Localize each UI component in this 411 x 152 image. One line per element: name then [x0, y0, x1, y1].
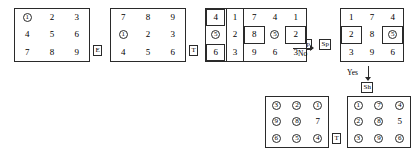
cell-value: 8 [146, 13, 151, 22]
grid-cell: 5 [389, 114, 410, 131]
cell-value: 1 [233, 13, 238, 22]
grid-cell: 7 [369, 97, 390, 114]
cell-value: 7 [25, 48, 30, 57]
cell-value: 1 [293, 13, 298, 22]
grid-cell: 7 [362, 9, 383, 26]
grid-cell: 6 [266, 130, 287, 147]
cell-value: 5 [388, 30, 397, 39]
column-separator [226, 9, 227, 61]
cell-value: 6 [170, 48, 175, 57]
cell-value: 5 [292, 134, 301, 143]
cell-value: 2 [293, 30, 298, 39]
cell-value: 1 [23, 13, 32, 22]
grid-cell: 5 [206, 26, 225, 43]
arrow-label-yes: Yes [347, 69, 358, 77]
cell-value: 8 [370, 30, 375, 39]
grid-cells: 174285396 [341, 9, 403, 61]
grid-cell: 2 [285, 26, 306, 43]
keycap-tab-2[interactable]: T [332, 133, 341, 144]
grid-cell: 8 [369, 114, 390, 131]
grid-cell: 5 [382, 26, 403, 43]
cell-value: 1 [349, 13, 354, 22]
keycap-space-2[interactable]: Sp [319, 39, 331, 50]
cell-value: 2 [233, 30, 238, 39]
grid-cell: 4 [382, 9, 403, 26]
grid-cell: 7 [307, 114, 328, 131]
grid-cell: 4 [307, 130, 328, 147]
grid-cells: 321987654 [266, 97, 328, 147]
grid-cell: 2 [341, 26, 362, 43]
grid-cell: 9 [244, 44, 265, 61]
cell-value: 3 [74, 13, 79, 22]
cell-value: 1 [119, 30, 128, 39]
grid-cell: 1 [111, 26, 136, 43]
cell-value: 7 [374, 101, 383, 110]
grid-cell: 5 [265, 26, 286, 43]
cell-value: 6 [395, 134, 404, 143]
grid-cell: 2 [225, 26, 244, 43]
grid-cell: 6 [64, 26, 89, 43]
grid-cell: 8 [287, 114, 308, 131]
keycap-shift[interactable]: Sh [361, 82, 373, 93]
cell-value: 6 [213, 48, 218, 57]
grid-cell: 1 [225, 9, 244, 26]
cell-value: 4 [213, 13, 218, 22]
cell-value: 3 [233, 48, 238, 57]
cell-value: 3 [349, 48, 354, 57]
cell-value: 4 [390, 13, 395, 22]
grid-cell: 4 [206, 9, 225, 26]
grid-cell: 3 [348, 130, 369, 147]
grid-cell: 4 [111, 44, 136, 61]
keycap-tab-1[interactable]: T [189, 45, 198, 56]
grid-cell: 6 [206, 44, 225, 61]
cell-value: 6 [273, 48, 278, 57]
cell-value: 1 [313, 101, 322, 110]
grid-cell: 4 [389, 97, 410, 114]
cell-value: 6 [390, 48, 395, 57]
cell-value: 7 [121, 13, 126, 22]
cell-value: 1 [354, 101, 363, 110]
transition-arrow-yes [364, 66, 374, 82]
cell-value: 5 [397, 117, 402, 126]
cell-value: 5 [146, 48, 151, 57]
cell-value: 5 [211, 30, 220, 39]
grid-cell: 2 [348, 114, 369, 131]
grid-cell: 8 [136, 9, 161, 26]
state-grid-1: 123456789 [14, 8, 90, 62]
grid-cells: 174285396 [348, 97, 410, 147]
grid-cells: 789123456 [111, 9, 185, 61]
grid-cell: 3 [266, 97, 287, 114]
cell-value: 2 [354, 117, 363, 126]
state-grid-7: 174285396 [347, 96, 411, 148]
grid-cell: 9 [266, 114, 287, 131]
cell-value: 9 [74, 48, 79, 57]
grid-cell: 3 [225, 44, 244, 61]
grid-cell: 5 [40, 26, 65, 43]
grid-cell: 4 [265, 9, 286, 26]
grid-cell: 6 [265, 44, 286, 61]
cell-value: 7 [252, 13, 257, 22]
grid-cell: 9 [160, 9, 185, 26]
grid-cell: 8 [244, 26, 265, 43]
cell-value: 4 [121, 48, 126, 57]
cell-value: 4 [313, 134, 322, 143]
cell-value: 8 [252, 30, 257, 39]
cell-value: 6 [272, 134, 281, 143]
grid-cell: 1 [15, 9, 40, 26]
grid-cell: 4 [15, 26, 40, 43]
grid-cell: 1 [307, 97, 328, 114]
grid-cell: 2 [136, 26, 161, 43]
arrow-label-no-2: No [298, 50, 307, 58]
cell-value: 3 [354, 134, 363, 143]
cell-value: 2 [146, 30, 151, 39]
grid-cell: 1 [348, 97, 369, 114]
cell-value: 4 [273, 13, 278, 22]
cell-value: 3 [272, 101, 281, 110]
keycap-enter[interactable]: E [93, 45, 102, 56]
cell-value: 9 [374, 134, 383, 143]
cell-value: 7 [370, 13, 375, 22]
grid-cell: 8 [362, 26, 383, 43]
cell-value: 4 [395, 101, 404, 110]
cell-value: 8 [292, 117, 301, 126]
